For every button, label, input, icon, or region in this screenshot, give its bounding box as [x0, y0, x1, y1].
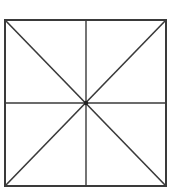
square-diagram [0, 0, 187, 195]
center-point [84, 101, 88, 105]
